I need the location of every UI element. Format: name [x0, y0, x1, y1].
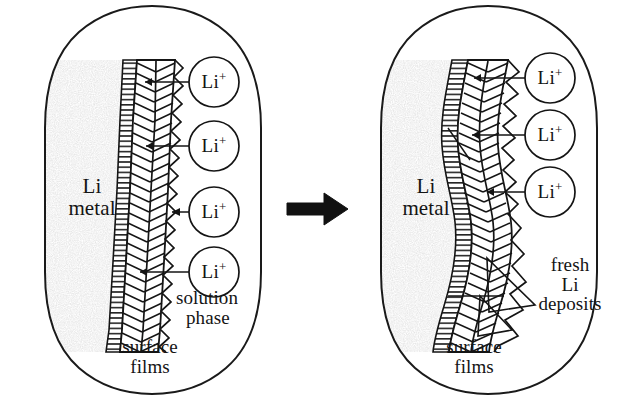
- figure-root: Li metal solution phase surface films Li…: [0, 0, 626, 408]
- ion-label-li-plus: Li+: [202, 135, 227, 157]
- label-solution-phase: solution phase: [176, 288, 266, 327]
- process-arrow: [287, 193, 348, 225]
- label-li-metal-after-line2: metal: [396, 198, 456, 220]
- label-fresh-li-deposits-line2: Li: [524, 275, 616, 295]
- label-li-metal-before-line1: Li: [62, 176, 122, 198]
- ion-label-li-plus: Li+: [202, 71, 227, 93]
- label-surface-films-after-line1: surface: [432, 337, 516, 357]
- ion-label-li-plus: Li+: [202, 201, 227, 223]
- label-fresh-li-deposits: fresh Li deposits: [524, 255, 616, 314]
- label-surface-films-after: surface films: [432, 337, 516, 376]
- label-li-metal-before-line2: metal: [62, 198, 122, 220]
- label-fresh-li-deposits-line3: deposits: [524, 294, 616, 314]
- label-solution-phase-line1: solution: [176, 288, 266, 308]
- label-li-metal-after-line1: Li: [396, 176, 456, 198]
- label-li-metal-before: Li metal: [62, 176, 122, 219]
- ion-label-li-plus: Li+: [538, 124, 563, 146]
- label-surface-films-before: surface films: [108, 337, 192, 376]
- ion-label-li-plus: Li+: [202, 261, 227, 283]
- label-surface-films-before-line2: films: [108, 357, 192, 377]
- ion-label-li-plus: Li+: [538, 181, 563, 203]
- label-li-metal-after: Li metal: [396, 176, 456, 219]
- label-surface-films-after-line2: films: [432, 357, 516, 377]
- ion-label-li-plus: Li+: [538, 67, 563, 89]
- label-surface-films-before-line1: surface: [108, 337, 192, 357]
- label-fresh-li-deposits-line1: fresh: [524, 255, 616, 275]
- label-solution-phase-line2: phase: [176, 308, 266, 328]
